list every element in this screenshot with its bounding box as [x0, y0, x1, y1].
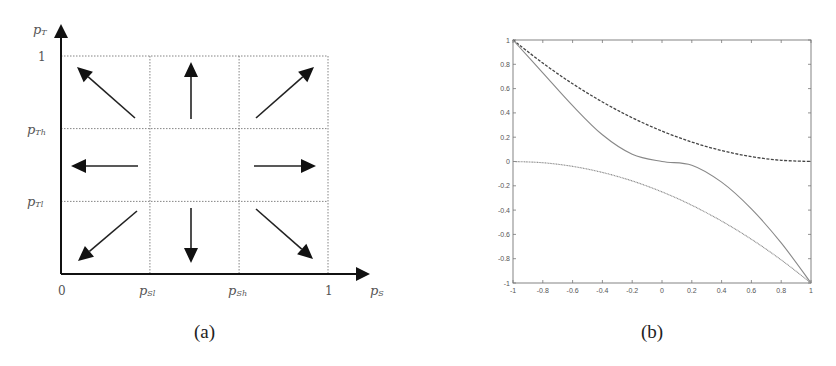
direction-arrows — [71, 62, 316, 263]
y-tick-label: pTl — [27, 194, 44, 209]
x-tick-label: 1 — [809, 287, 813, 294]
x-axis-label: pS — [370, 283, 384, 298]
figure: pTpS0pSlpSh11pThpTl -1-0.8-0.6-0.4-0.200… — [0, 0, 836, 366]
x-tick-label: pSl — [139, 283, 156, 298]
x-tick-label: 0.2 — [687, 287, 697, 294]
arrow-down-right-icon — [256, 209, 302, 249]
y-tick-label: 0 — [506, 158, 510, 165]
y-tick-label: -0.4 — [498, 207, 510, 214]
chart-plot-area — [513, 40, 811, 283]
arrowhead-up-icon — [184, 62, 198, 77]
y-axis-arrowhead-icon — [54, 24, 68, 38]
x-axis-arrowhead-icon — [356, 267, 370, 281]
series-solid-line — [513, 40, 811, 283]
x-tick-label: -1 — [510, 287, 516, 294]
y-tick-label: -1 — [504, 280, 510, 287]
x-tick-label: 0.6 — [747, 287, 757, 294]
caption-a: (a) — [194, 321, 215, 343]
x-tick-label: 0.4 — [717, 287, 727, 294]
arrow-up-right-icon — [256, 77, 303, 118]
plot-frame — [513, 40, 811, 283]
x-tick-label: -0.4 — [596, 287, 608, 294]
y-tick-label: 1 — [506, 37, 510, 44]
x-tick-label: -0.2 — [626, 287, 638, 294]
x-tick-label: -0.6 — [567, 287, 579, 294]
arrow-down-left-icon — [89, 211, 137, 251]
chart-ticks: -1-0.8-0.6-0.4-0.200.20.40.60.8110.80.60… — [498, 37, 813, 295]
y-tick-label: -0.6 — [498, 231, 510, 238]
series-dotted-line — [513, 162, 811, 284]
y-tick-label: -0.2 — [498, 182, 510, 189]
arrowhead-right-icon — [301, 159, 316, 173]
y-tick-label: 1 — [38, 50, 46, 64]
y-tick-label: 0.2 — [500, 134, 510, 141]
arrowhead-left-icon — [71, 159, 86, 173]
y-tick-label: -0.8 — [498, 255, 510, 262]
x-tick-label: 0.8 — [776, 287, 786, 294]
series-dashed-line — [513, 40, 811, 162]
x-tick-label: 0 — [58, 284, 66, 298]
caption-b: (b) — [641, 321, 663, 343]
diagram-axes — [54, 24, 370, 281]
y-tick-label: 0.6 — [500, 85, 510, 92]
x-tick-label: -0.8 — [537, 287, 549, 294]
arrowhead-down-icon — [184, 248, 198, 263]
x-tick-label: 1 — [325, 284, 333, 298]
arrow-up-left-icon — [88, 77, 135, 118]
chart-series — [513, 40, 811, 283]
y-axis-label: pT — [33, 22, 47, 37]
arrowhead-down-left-icon — [78, 246, 94, 261]
panel-a-diagram: pTpS0pSlpSh11pThpTl — [0, 0, 420, 366]
x-tick-label: pSh — [228, 283, 247, 298]
x-tick-label: 0 — [660, 287, 664, 294]
y-tick-label: 0.8 — [500, 61, 510, 68]
y-tick-label: pTh — [27, 122, 46, 137]
y-tick-label: 0.4 — [500, 109, 510, 116]
